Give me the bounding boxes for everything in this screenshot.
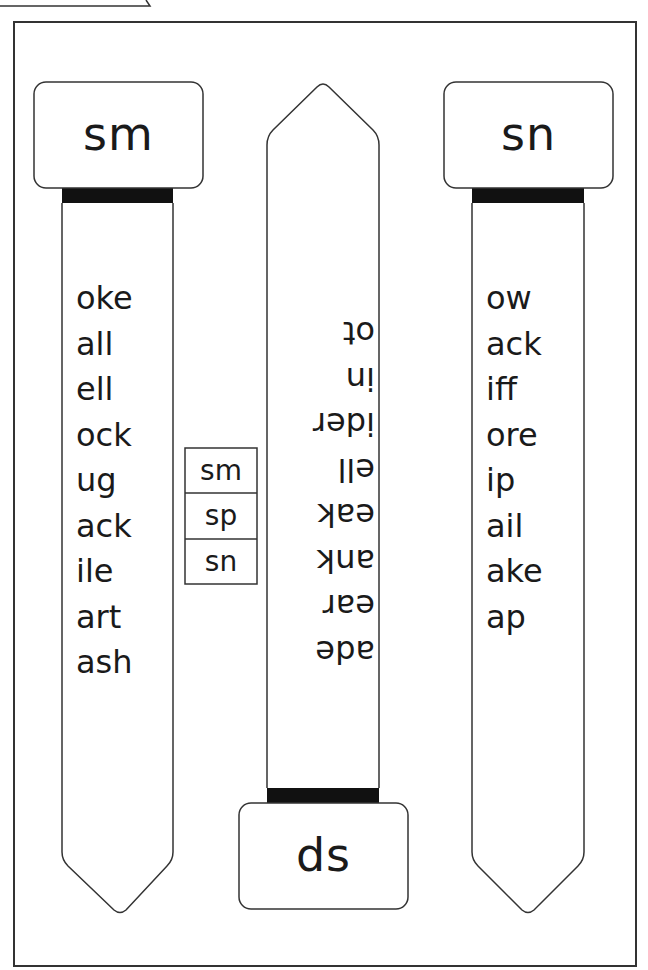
list-item: ell <box>76 367 133 413</box>
list-item: ile <box>76 549 133 595</box>
list-item: ack <box>76 504 133 550</box>
left-header-label: sm <box>34 84 203 184</box>
right-slider-band <box>472 188 584 203</box>
list-item: ear <box>285 583 375 629</box>
list-item: ash <box>76 640 133 686</box>
list-item: in <box>285 356 375 402</box>
right-header-label: sn <box>444 84 613 184</box>
list-item: oke <box>76 276 133 322</box>
blend-cell-sp: sp <box>185 493 257 538</box>
list-item: ank <box>285 538 375 584</box>
list-item: ow <box>486 276 543 322</box>
list-item: ider <box>285 401 375 447</box>
center-word-list: ade ear ank eak ell ider in ot <box>285 310 375 674</box>
corner-tab <box>0 0 150 6</box>
list-item: iff <box>486 367 543 413</box>
list-item: all <box>76 322 133 368</box>
list-item: ell <box>285 447 375 493</box>
list-item: ail <box>486 504 543 550</box>
list-item: ip <box>486 458 543 504</box>
list-item: ap <box>486 595 543 641</box>
list-item: ug <box>76 458 133 504</box>
list-item: ake <box>486 549 543 595</box>
list-item: ock <box>76 413 133 459</box>
list-item: ore <box>486 413 543 459</box>
right-word-list: ow ack iff ore ip ail ake ap <box>486 276 543 640</box>
center-header-label: ds <box>239 805 408 905</box>
left-word-list: oke all ell ock ug ack ile art ash <box>76 276 133 686</box>
list-item: ot <box>285 310 375 356</box>
left-slider-band <box>62 188 173 203</box>
list-item: ack <box>486 322 543 368</box>
center-slider-band <box>267 788 379 803</box>
list-item: art <box>76 595 133 641</box>
blend-cell-sm: sm <box>185 448 257 493</box>
blend-box: sm sp sn <box>185 448 257 584</box>
list-item: eak <box>285 492 375 538</box>
list-item: ade <box>285 629 375 675</box>
blend-cell-sn: sn <box>185 539 257 584</box>
